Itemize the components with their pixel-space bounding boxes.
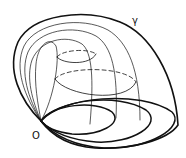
diagram-svg — [0, 0, 186, 158]
origin-label: O — [32, 131, 40, 141]
inner-arc-4 — [35, 42, 57, 121]
gamma-label: γ — [132, 16, 138, 26]
surface-diagram: O γ — [0, 0, 186, 158]
lower-ellipse-front — [55, 79, 136, 95]
upper-ellipse-back — [57, 50, 96, 57]
inner-arc-1 — [20, 23, 140, 121]
lower-ellipse-back — [55, 70, 136, 82]
outer-boundary-curve — [14, 15, 178, 149]
